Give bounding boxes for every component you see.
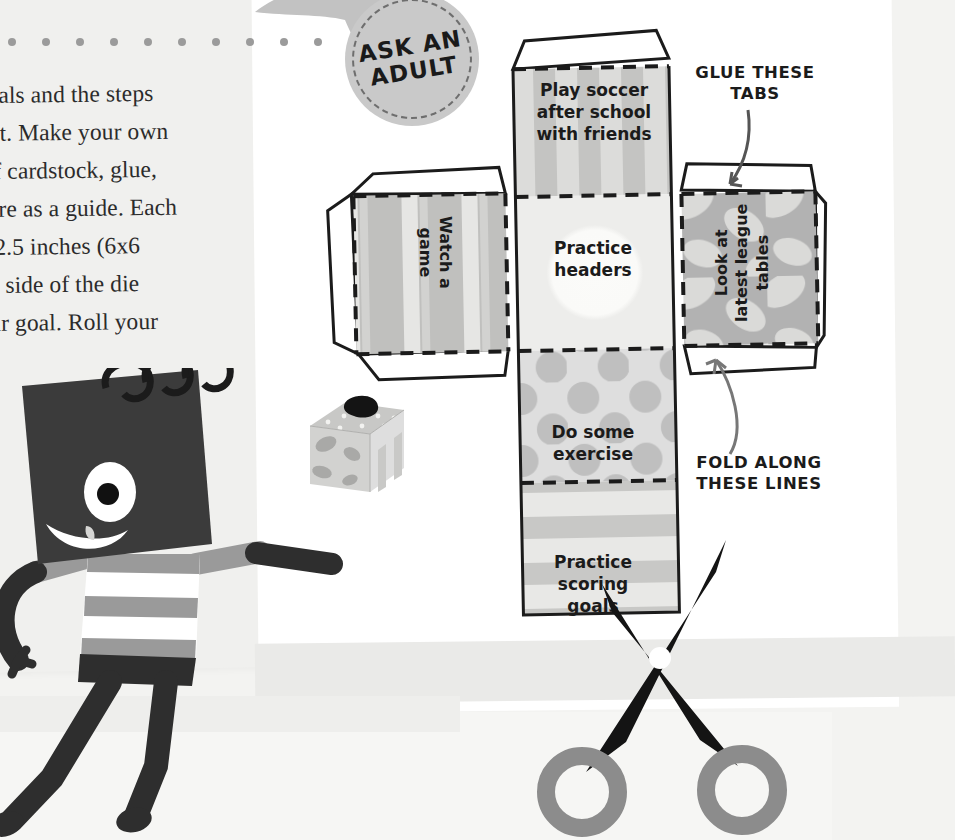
scissors-handle-left (546, 756, 618, 828)
callout-glue-line-2: TABS (682, 83, 828, 104)
copy-line: ch side of the die (0, 262, 327, 304)
face-right (681, 191, 818, 346)
callout-glue-tabs: GLUE THESE TABS (682, 62, 828, 104)
scissors-handle-right (706, 754, 778, 826)
instruction-paragraph: goals and the steps n it. Make your own … (0, 72, 328, 342)
copy-line: n it. Make your own (0, 110, 325, 152)
character-left-leg (12, 682, 110, 820)
copy-line: of cardstock, glue, (0, 148, 326, 190)
character-head (22, 368, 230, 564)
character-left-arm-forearm (4, 572, 36, 660)
die-face-left (310, 426, 370, 492)
callout-fold-line-2: THESE LINES (688, 473, 830, 494)
character-hips (78, 654, 196, 686)
copy-line: here as a guide. Each (0, 186, 326, 228)
face-top (513, 66, 671, 197)
face-bottom-1 (518, 348, 677, 483)
scissors-pivot (649, 647, 671, 669)
character-pupil (97, 483, 119, 505)
assembled-paper-die (300, 392, 410, 502)
glue-tab-upper-left (351, 167, 505, 196)
face-center (515, 194, 674, 351)
scissors-icon (530, 528, 830, 840)
character-right-leg (136, 682, 166, 816)
character-right-arm-forearm (256, 553, 332, 564)
copy-line: our goal. Roll your (0, 300, 328, 342)
glue-tab-top (512, 30, 669, 69)
curved-arrow-up-icon (690, 350, 770, 460)
curved-arrow-down-left-icon (690, 104, 770, 204)
character-striped-shirt (80, 554, 200, 660)
callout-glue-line-1: GLUE THESE (682, 62, 828, 83)
face-left (353, 193, 508, 354)
copy-line: x 2.5 inches (6x6 (0, 224, 327, 266)
